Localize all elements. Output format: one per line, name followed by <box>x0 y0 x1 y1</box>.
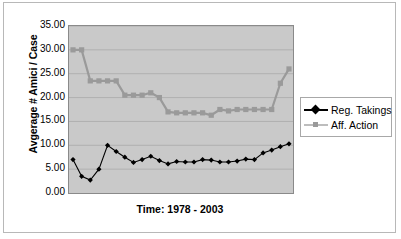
series-reg-takings <box>70 141 291 182</box>
square-marker-icon <box>70 47 75 52</box>
diamond-marker-icon <box>226 159 231 164</box>
legend-label: Aff. Action <box>329 119 378 131</box>
square-marker-icon <box>148 90 153 95</box>
diamond-marker-icon <box>79 174 84 179</box>
square-marker-icon <box>79 47 84 52</box>
diamond-marker-icon <box>235 158 240 163</box>
chart-legend: Reg. Takings Aff. Action <box>300 97 392 137</box>
diamond-marker-icon <box>217 159 222 164</box>
square-marker-icon <box>88 78 93 83</box>
diamond-marker-icon <box>70 157 75 162</box>
square-marker-icon <box>114 78 119 83</box>
series-aff-action <box>70 47 291 118</box>
square-marker-icon <box>209 113 214 118</box>
y-tick-label: 15.00 <box>19 115 65 125</box>
legend-label: Reg. Takings <box>329 104 392 116</box>
chart-canvas <box>69 26 293 193</box>
square-marker-icon <box>122 93 127 98</box>
gridlines <box>69 26 293 169</box>
square-marker-icon <box>96 78 101 83</box>
y-tick-label: 30.00 <box>19 44 65 54</box>
square-marker-icon <box>286 66 291 71</box>
square-marker-icon <box>105 78 110 83</box>
diamond-marker-icon <box>174 159 179 164</box>
square-marker-icon <box>140 93 145 98</box>
square-marker-icon <box>269 107 274 112</box>
diamond-marker-icon <box>269 147 274 152</box>
plot-area <box>68 25 294 194</box>
diamond-marker-icon <box>200 157 205 162</box>
data-series-layer <box>70 47 291 182</box>
square-marker-icon <box>226 108 231 113</box>
square-marker-icon <box>217 107 222 112</box>
diamond-marker-icon <box>191 159 196 164</box>
square-marker-icon <box>303 119 329 130</box>
y-tick-label: 25.00 <box>19 68 65 78</box>
y-axis-tick-labels: 35.0030.0025.0020.0015.0010.005.000.00 <box>15 0 65 239</box>
square-marker-icon <box>183 110 188 115</box>
y-tick-label: 5.00 <box>19 163 65 173</box>
square-marker-icon <box>260 107 265 112</box>
square-marker-icon <box>278 81 283 86</box>
diamond-marker-icon <box>243 157 248 162</box>
diamond-marker-icon <box>209 157 214 162</box>
legend-item-aff-action[interactable]: Aff. Action <box>303 117 388 132</box>
diamond-marker-icon <box>183 159 188 164</box>
diamond-marker-icon <box>157 158 162 163</box>
diamond-marker-icon <box>140 157 145 162</box>
chart-figure: Avgerage # Amici / Case 35.0030.0025.002… <box>0 0 401 239</box>
square-marker-icon <box>157 95 162 100</box>
y-tick-label: 20.00 <box>19 92 65 102</box>
diamond-marker-icon <box>131 160 136 165</box>
diamond-marker-icon <box>165 161 170 166</box>
square-marker-icon <box>165 109 170 114</box>
legend-item-reg-takings[interactable]: Reg. Takings <box>303 102 388 117</box>
x-axis-title: Time: 1978 - 2003 <box>68 203 292 215</box>
square-marker-icon <box>131 93 136 98</box>
square-marker-icon <box>252 107 257 112</box>
square-marker-icon <box>243 107 248 112</box>
y-tick-label: 10.00 <box>19 139 65 149</box>
square-marker-icon <box>200 110 205 115</box>
square-marker-icon <box>235 107 240 112</box>
diamond-marker-icon <box>148 154 153 159</box>
series-line <box>73 144 289 180</box>
square-marker-icon <box>191 110 196 115</box>
y-tick-label: 0.00 <box>19 187 65 197</box>
y-tick-label: 35.00 <box>19 20 65 30</box>
diamond-marker-icon <box>303 104 329 115</box>
square-marker-icon <box>174 110 179 115</box>
